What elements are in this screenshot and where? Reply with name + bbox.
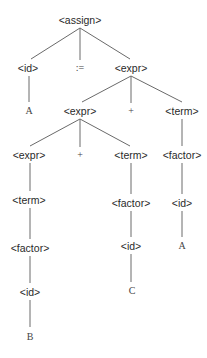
- nonterminal-node: <id>: [121, 240, 141, 252]
- tree-edge: [30, 119, 80, 146]
- tree-edge: [82, 76, 131, 102]
- terminal-node: A: [25, 105, 32, 117]
- terminal-node: :=: [76, 62, 84, 74]
- nonterminal-node: <expr>: [13, 149, 46, 161]
- terminal-node: B: [27, 331, 34, 343]
- terminal-node: A: [178, 240, 185, 252]
- nonterminal-node: <factor>: [112, 197, 151, 209]
- terminal-node: +: [77, 149, 83, 161]
- tree-edge: [31, 28, 80, 59]
- tree-edges: [0, 0, 207, 358]
- nonterminal-node: <id>: [20, 286, 40, 298]
- tree-edge: [131, 76, 182, 102]
- nonterminal-node: <expr>: [115, 62, 148, 74]
- nonterminal-node: <term>: [12, 194, 45, 206]
- nonterminal-node: <assign>: [59, 14, 102, 26]
- nonterminal-node: <factor>: [163, 149, 202, 161]
- nonterminal-node: <id>: [172, 197, 192, 209]
- nonterminal-node: <expr>: [64, 105, 97, 117]
- nonterminal-node: <term>: [114, 149, 147, 161]
- nonterminal-node: <factor>: [11, 242, 50, 254]
- tree-edge: [80, 119, 130, 146]
- tree-edge: [80, 28, 130, 59]
- nonterminal-node: <term>: [165, 105, 198, 117]
- terminal-node: +: [128, 105, 134, 117]
- nonterminal-node: <id>: [18, 62, 38, 74]
- parse-tree-diagram: <assign><id>:=<expr>A<expr>+<term><expr>…: [0, 0, 207, 358]
- terminal-node: C: [129, 285, 136, 297]
